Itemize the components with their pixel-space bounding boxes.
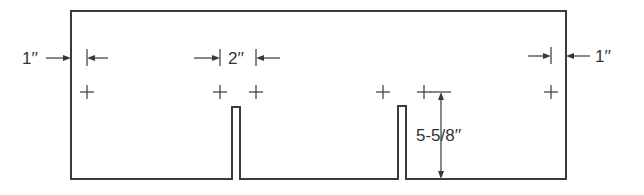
cross-mark-5 <box>417 85 431 99</box>
panel-drawing: 1′′ 2′′ 1′′ 5-5/8′′ <box>0 0 644 195</box>
arrow-right-icon <box>63 55 71 61</box>
cross-mark-6 <box>544 85 558 99</box>
arrow-up-icon <box>438 92 444 100</box>
arrow-right-icon <box>212 55 220 61</box>
arrow-right-icon <box>543 53 551 59</box>
left-margin-label: 1′′ <box>22 49 38 68</box>
arrow-left-icon <box>87 55 95 61</box>
cross-marks <box>80 85 558 99</box>
cross-mark-1 <box>80 85 94 99</box>
arrow-left-icon <box>566 53 574 59</box>
spacing-dimension: 2′′ <box>194 49 280 68</box>
height-dimension: 5-5/8′′ <box>416 92 461 179</box>
height-label: 5-5/8′′ <box>416 126 461 145</box>
right-margin-dimension: 1′′ <box>528 47 611 66</box>
arrow-down-icon <box>438 171 444 179</box>
cross-mark-3 <box>249 85 263 99</box>
left-margin-dimension: 1′′ <box>22 49 108 68</box>
right-margin-label: 1′′ <box>595 47 611 66</box>
spacing-label: 2′′ <box>228 49 244 68</box>
cross-mark-2 <box>213 85 227 99</box>
cross-mark-4 <box>376 85 390 99</box>
arrow-left-icon <box>256 55 264 61</box>
panel-outline <box>71 11 566 179</box>
